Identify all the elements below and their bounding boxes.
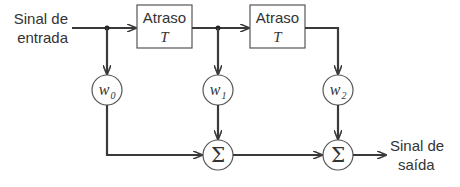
input-label-line2: entrada xyxy=(17,29,69,46)
summer-2: Σ xyxy=(323,140,353,170)
weight-symbol-1: w xyxy=(210,81,221,98)
weight-w1: w 1 xyxy=(203,75,233,105)
delay-block-2: Atraso T xyxy=(250,5,305,48)
sigma-icon-2: Σ xyxy=(331,143,345,167)
weight-sub-2: 2 xyxy=(342,90,347,101)
weight-symbol-0: w xyxy=(99,81,110,98)
summer-1: Σ xyxy=(203,140,233,170)
delay2-to-w2-arrow xyxy=(305,28,338,74)
input-label-line1: Sinal de xyxy=(14,10,68,27)
output-label: Sinal de saída xyxy=(390,137,444,173)
delay-label-1: Atraso xyxy=(143,9,186,26)
weight-sub-1: 1 xyxy=(222,90,227,101)
weight-sub-0: 0 xyxy=(111,90,116,101)
delay-block-1: Atraso T xyxy=(137,5,192,48)
output-label-line1: Sinal de xyxy=(390,137,444,154)
sigma-icon-1: Σ xyxy=(211,143,225,167)
output-label-line2: saída xyxy=(398,156,435,173)
weight-w0: w 0 xyxy=(92,75,122,105)
w0-to-sum1-arrow xyxy=(107,105,202,155)
delay-label-2: Atraso xyxy=(256,9,299,26)
weight-w2: w 2 xyxy=(323,75,353,105)
input-label: Sinal de entrada xyxy=(14,10,69,46)
weight-symbol-2: w xyxy=(330,81,341,98)
tapped-delay-line-diagram: Sinal de entrada Atraso T Atraso T w 0 w… xyxy=(0,0,460,187)
